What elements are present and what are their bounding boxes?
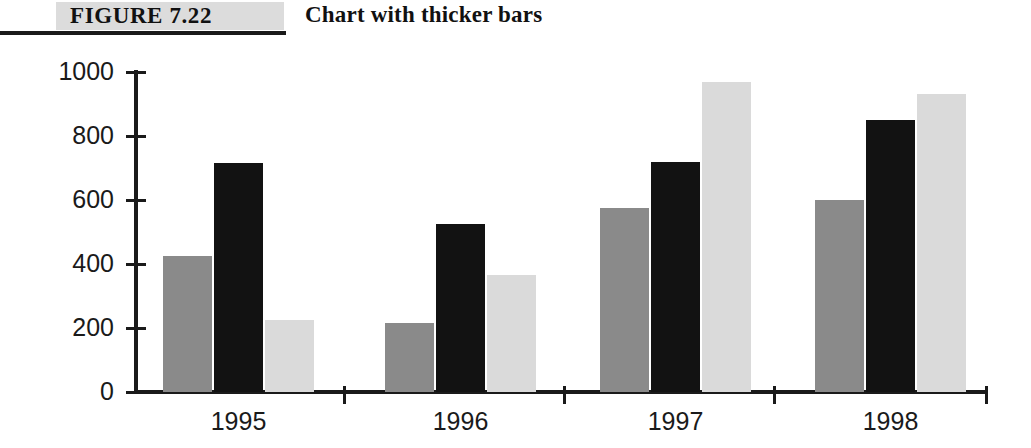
- x-axis-tick: [985, 386, 988, 404]
- figure-header: FIGURE 7.22 Chart with thicker bars: [0, 0, 1031, 46]
- figure-number-label: FIGURE 7.22: [70, 3, 212, 29]
- y-axis-tick: [126, 135, 146, 138]
- bar: [866, 120, 915, 392]
- bar: [600, 208, 649, 392]
- x-axis-tick: [343, 386, 346, 404]
- y-axis-tick-label: 600: [30, 187, 114, 212]
- bar: [702, 82, 751, 392]
- y-axis-tick-label: 800: [30, 123, 114, 148]
- y-axis-tick: [126, 199, 146, 202]
- y-axis-tick: [126, 263, 146, 266]
- y-axis-tick: [126, 327, 146, 330]
- x-axis-category-label: 1998: [821, 408, 961, 435]
- y-axis-tick: [126, 71, 146, 74]
- bar: [163, 256, 212, 392]
- header-divider-rule: [0, 31, 286, 35]
- bar: [214, 163, 263, 392]
- bar: [436, 224, 485, 392]
- x-axis-category-label: 1995: [169, 408, 309, 435]
- bar: [917, 94, 966, 392]
- x-axis-category-label: 1997: [606, 408, 746, 435]
- x-axis-category-label: 1996: [391, 408, 531, 435]
- bar-chart: 02004006008001000 1995199619971998: [0, 46, 1031, 448]
- y-axis-tick: [126, 391, 146, 394]
- bar: [815, 200, 864, 392]
- bar: [651, 162, 700, 392]
- bar: [265, 320, 314, 392]
- y-axis-tick-label: 1000: [30, 59, 114, 84]
- y-axis-tick-label: 200: [30, 315, 114, 340]
- x-axis-tick: [563, 386, 566, 404]
- x-axis-tick: [773, 386, 776, 404]
- y-axis-tick-label: 0: [30, 379, 114, 404]
- figure-title: Chart with thicker bars: [305, 2, 542, 28]
- bar: [487, 275, 536, 392]
- bar: [385, 323, 434, 392]
- y-axis-tick-label: 400: [30, 251, 114, 276]
- y-axis-line: [134, 70, 138, 394]
